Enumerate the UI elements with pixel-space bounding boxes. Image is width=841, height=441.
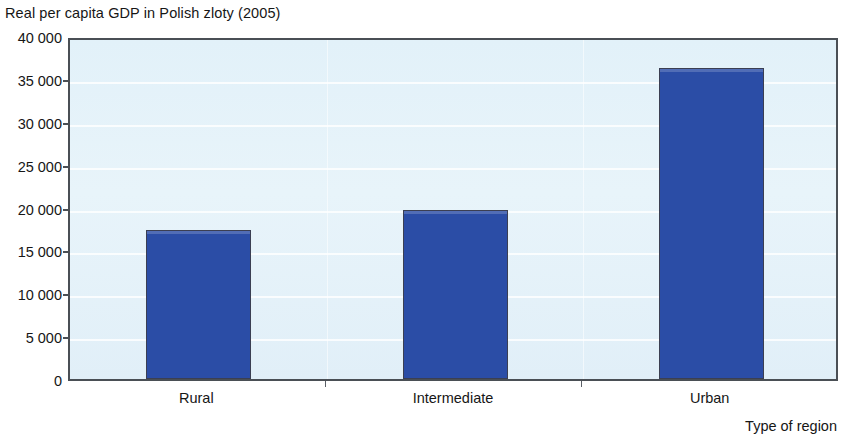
bar-urban[interactable]	[659, 68, 764, 379]
y-tick-label: 15 000	[0, 245, 62, 260]
chart-title: Real per capita GDP in Polish zloty (200…	[5, 4, 281, 22]
x-tick-label-intermediate: Intermediate	[363, 390, 543, 406]
y-tick-label: 20 000	[0, 203, 62, 218]
y-tick-label: 5 000	[0, 331, 62, 346]
x-tick-mark	[325, 381, 326, 387]
bar-intermediate[interactable]	[403, 210, 508, 379]
y-tick-label: 25 000	[0, 160, 62, 175]
x-tick-label-urban: Urban	[620, 390, 800, 406]
plot-area	[68, 38, 838, 381]
category-separator	[583, 40, 584, 379]
bar-rural[interactable]	[146, 230, 251, 379]
category-separator	[327, 40, 328, 379]
y-tick-label: 0	[0, 374, 62, 389]
y-tick-label: 30 000	[0, 117, 62, 132]
y-tick-label: 40 000	[0, 31, 62, 46]
chart-figure: Real per capita GDP in Polish zloty (200…	[0, 0, 841, 441]
x-tick-label-rural: Rural	[106, 390, 286, 406]
plot-inner	[70, 40, 836, 379]
x-axis-title: Type of region	[745, 418, 837, 435]
x-tick-mark	[581, 381, 582, 387]
y-tick-label: 10 000	[0, 288, 62, 303]
y-tick-label: 35 000	[0, 74, 62, 89]
